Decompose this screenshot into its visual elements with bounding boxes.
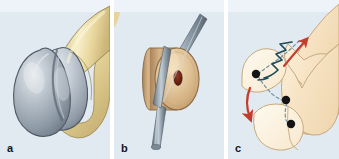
panel-b-top-fade (114, 0, 224, 12)
recipient-site-marker-lower (287, 120, 295, 128)
panel-c: c (228, 0, 339, 159)
panel-a: a (0, 0, 110, 159)
panel-c-illustration (228, 0, 339, 159)
panel-b: b (114, 0, 224, 159)
rod-tip (151, 144, 160, 149)
panel-c-top-fade (228, 0, 339, 12)
donor-site-marker-upper (252, 70, 260, 78)
panel-b-illustration (114, 0, 224, 159)
panel-label-a: a (7, 143, 13, 154)
panel-label-c: c (235, 143, 241, 154)
panel-a-illustration (0, 0, 110, 159)
panel-label-b: b (121, 143, 128, 154)
panel-a-top-fade (0, 0, 110, 12)
recipient-site-marker-mid (282, 96, 290, 104)
figure-osteochondral-transfer: a (0, 0, 339, 159)
